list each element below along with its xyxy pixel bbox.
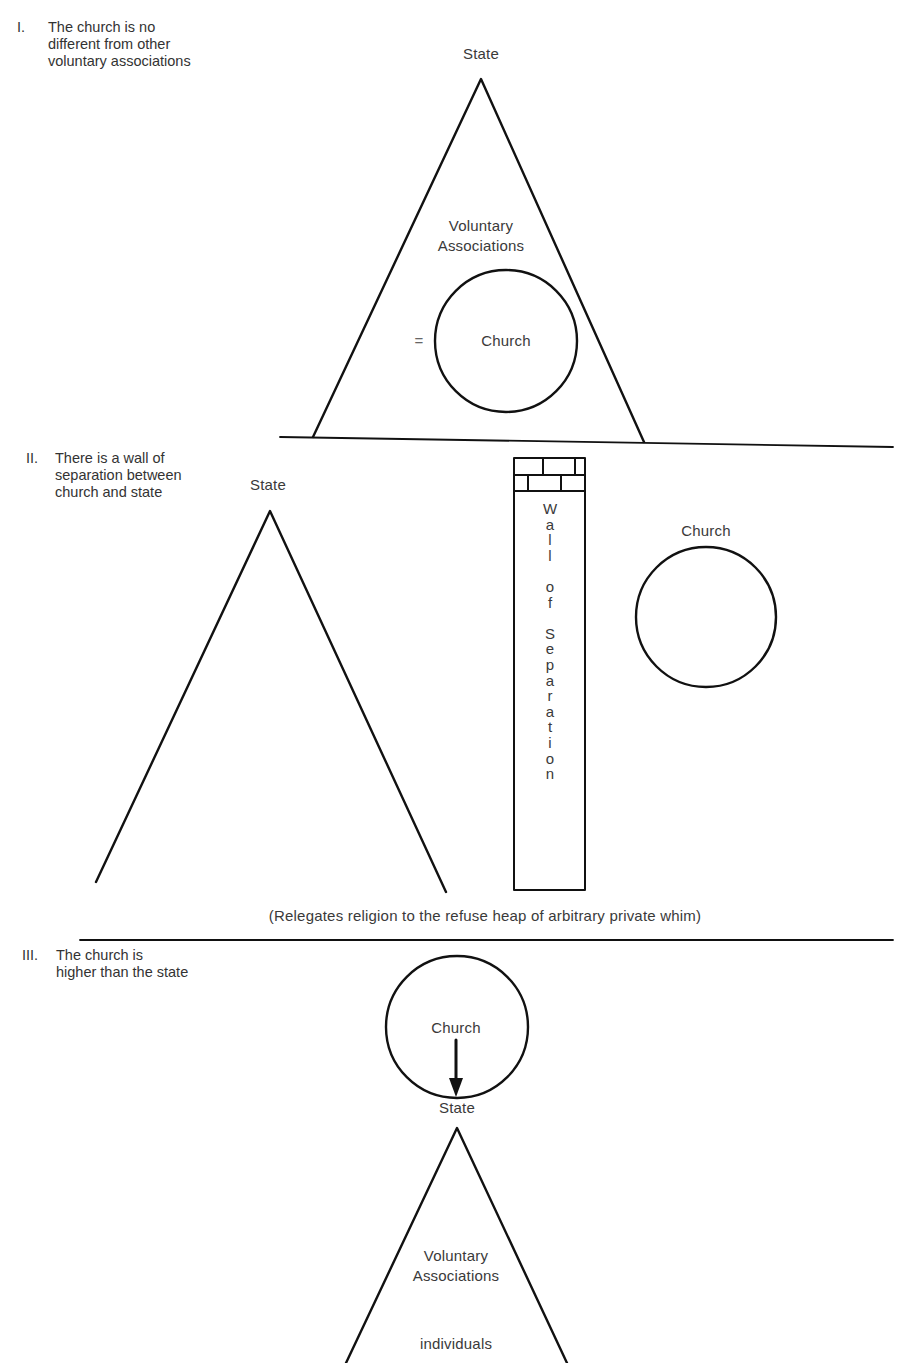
associations-label-3: Associations <box>413 1267 500 1285</box>
wall-letter: W <box>516 501 584 517</box>
church-label-2: Church <box>681 522 731 540</box>
panel-1-numeral: I. <box>17 19 25 35</box>
caption-line: different from other <box>48 36 170 52</box>
caption-line: higher than the state <box>56 964 188 980</box>
church-label-1: Church <box>481 332 531 350</box>
equals-sign: = <box>415 332 424 350</box>
down-arrow-icon <box>449 1078 463 1097</box>
caption-line: There is a wall of <box>55 450 165 466</box>
wall-letter: a <box>516 673 584 689</box>
associations-label-1: Associations <box>438 237 525 255</box>
caption-line: The church is no <box>48 19 155 35</box>
voluntary-label-1: Voluntary <box>449 217 513 235</box>
wall-letter: o <box>516 579 584 595</box>
state-label-1: State <box>463 45 499 63</box>
caption-line: separation between <box>55 467 182 483</box>
wall-letter: l <box>516 532 584 548</box>
divider-1 <box>280 437 893 447</box>
wall-letter <box>516 563 584 579</box>
wall-letter: a <box>516 517 584 533</box>
wall-letter: e <box>516 641 584 657</box>
panel-2-numeral: II. <box>26 450 38 466</box>
state-label-2: State <box>250 476 286 494</box>
panel-3-numeral: III. <box>22 947 38 963</box>
individuals-label: individuals <box>420 1335 492 1353</box>
wall-letter: t <box>516 719 584 735</box>
church-circle-2 <box>636 547 776 687</box>
wall-letter: f <box>516 595 584 611</box>
wall-letter: r <box>516 688 584 704</box>
state-triangle-3 <box>346 1128 567 1363</box>
church-label-3: Church <box>431 1019 481 1037</box>
state-triangle-1 <box>313 79 644 442</box>
diagram-page: I. The church is no different from other… <box>0 0 916 1363</box>
caption-line: voluntary associations <box>48 53 191 69</box>
voluntary-label-3: Voluntary <box>424 1247 488 1265</box>
wall-letter: S <box>516 626 584 642</box>
caption-line: church and state <box>55 484 162 500</box>
wall-label: W a l l o f S e p a r a t i o n <box>516 501 584 782</box>
wall-letter: n <box>516 766 584 782</box>
wall-letter: a <box>516 704 584 720</box>
wall-letter: l <box>516 548 584 564</box>
wall-letter: o <box>516 751 584 767</box>
wall-letter: i <box>516 735 584 751</box>
wall-letter <box>516 610 584 626</box>
state-label-3: State <box>439 1099 475 1117</box>
wall-letter: p <box>516 657 584 673</box>
diagram-canvas <box>0 0 916 1363</box>
state-triangle-2 <box>96 511 446 892</box>
caption-line: The church is <box>56 947 143 963</box>
separation-note: (Relegates religion to the refuse heap o… <box>269 907 701 925</box>
